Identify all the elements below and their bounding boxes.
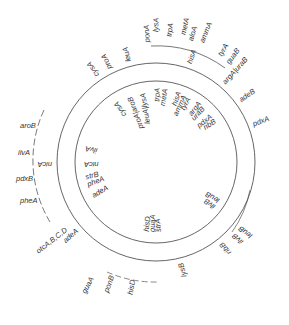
gene-label: ribB [217, 240, 232, 256]
gene-label: hisA [185, 48, 198, 65]
gene-label: guaA [80, 275, 96, 295]
gene-label: hisD [142, 215, 153, 231]
gene-label: ponB [101, 274, 116, 294]
gene-label: pdxA [250, 114, 270, 129]
gene-label: nicA [37, 160, 52, 169]
gene-label: ponA [142, 25, 152, 44]
gene-label: pdxB [15, 174, 33, 183]
gene-label: hisD [126, 278, 138, 295]
gene-label: metA [158, 88, 170, 107]
gene-label: aroB [20, 121, 36, 130]
gene-label: proA [99, 53, 114, 72]
gene-label: lysA [151, 18, 160, 32]
gene-label: nicA [84, 160, 99, 169]
gene-label: lysB [176, 262, 188, 278]
gene-label: ammA [197, 21, 213, 44]
gene-label: cysA [112, 100, 128, 119]
circular-map-svg: cysAproA|aroBleuA|lysAtrpAmetAhisAammAty… [0, 0, 289, 325]
gene-label: adeB [237, 87, 257, 104]
gene-label: cysA [85, 60, 101, 79]
gene-label: leuA [120, 46, 132, 63]
genetic-map: cysAproA|aroBleuA|lysAtrpAmetAhisAammAty… [0, 0, 289, 325]
gene-label: pheA [19, 196, 38, 205]
gene-label: ilvA [84, 144, 98, 155]
gene-label: trpA [164, 22, 175, 37]
gene-label: ilvA [18, 148, 30, 157]
gene-labels: cysAproA|aroBleuA|lysAtrpAmetAhisAammAty… [15, 17, 270, 296]
